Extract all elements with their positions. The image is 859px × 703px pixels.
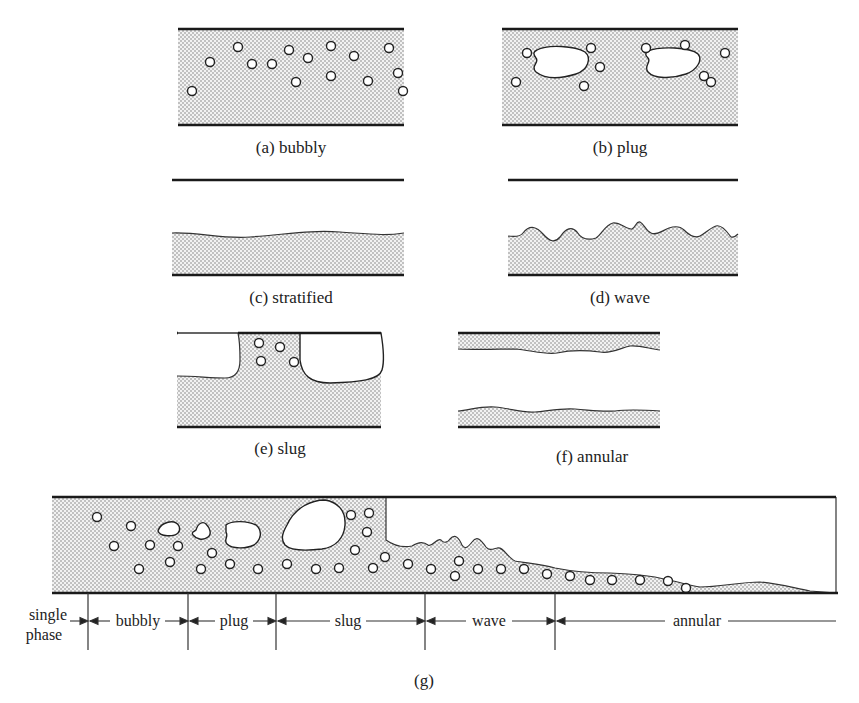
- gas-plug: [226, 522, 261, 548]
- region-label-annular: annular: [673, 612, 722, 629]
- panel-a-bubbly: (a) bubbly: [178, 29, 408, 157]
- panel-b-plug: (b) plug: [502, 29, 738, 157]
- caption-f: (f) annular: [556, 447, 629, 466]
- gas-slug: [300, 333, 384, 383]
- panel-f-annular: (f) annular: [458, 333, 660, 466]
- caption-g: (g): [414, 671, 434, 690]
- caption-b: (b) plug: [593, 138, 648, 157]
- region-label-plug: plug: [220, 612, 248, 630]
- region-label-phase: phase: [26, 626, 62, 644]
- region-label-single: single: [29, 606, 67, 624]
- gas-plug: [534, 46, 589, 77]
- caption-c: (c) stratified: [249, 288, 333, 307]
- panel-d-wave: (d) wave: [508, 180, 738, 307]
- region-arrows: [70, 618, 836, 625]
- two-phase-flow-regimes-diagram: (a) bubbly (b) plug (c) stratified: [0, 0, 859, 703]
- caption-e: (e) slug: [254, 439, 306, 458]
- region-label-wave: wave: [472, 612, 506, 629]
- caption-d: (d) wave: [590, 288, 650, 307]
- caption-a: (a) bubbly: [256, 138, 327, 157]
- panel-c-stratified: (c) stratified: [172, 180, 404, 307]
- panel-g-combined: single phase bubbly plug slug wave annul…: [26, 497, 838, 690]
- region-label-slug: slug: [335, 612, 362, 630]
- panel-e-slug: (e) slug: [177, 333, 384, 458]
- region-label-bubbly: bubbly: [116, 612, 160, 630]
